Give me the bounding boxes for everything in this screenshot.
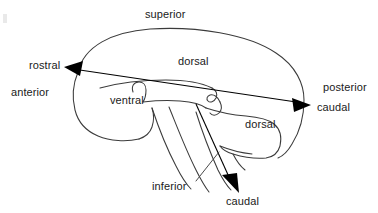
brain-orientation-diagram: superior rostral anterior posterior caud… (0, 0, 378, 213)
label-caudal-vertical: caudal (226, 196, 259, 207)
label-rostral: rostral (29, 60, 60, 71)
label-anterior: anterior (11, 87, 49, 98)
triangle-left-icon (64, 61, 83, 76)
midbrain-tectum (210, 102, 221, 115)
inferior-leader-line (196, 152, 219, 181)
label-posterior: posterior (323, 82, 367, 93)
triangle-right-icon (292, 98, 311, 112)
scan-artifact (3, 14, 7, 23)
label-ventral-cerebrum: ventral (110, 95, 144, 106)
pons-outline (152, 108, 191, 189)
label-superior: superior (145, 9, 186, 20)
label-caudal-horizontal: caudal (317, 102, 350, 113)
label-dorsal-brainstem: dorsal (245, 119, 276, 130)
label-dorsal-cerebrum: dorsal (178, 56, 209, 67)
temporal-lobe-outline (139, 108, 154, 139)
label-inferior: inferior (152, 181, 186, 192)
